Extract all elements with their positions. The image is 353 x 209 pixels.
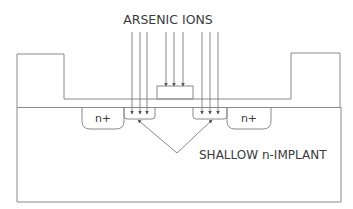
ion-beam-arrows xyxy=(132,32,218,114)
n-plus-right-label: n+ xyxy=(241,112,257,125)
ion-implant-diagram: ARSENIC IONS n+ n+ SHALLOW n-IMPLANT xyxy=(0,0,353,209)
arsenic-ions-label: ARSENIC IONS xyxy=(123,12,213,27)
n-plus-left-label: n+ xyxy=(95,112,111,125)
n-plus-left-region: n+ xyxy=(82,108,124,129)
shallow-n-implant-label: SHALLOW n-IMPLANT xyxy=(199,148,327,162)
gate-block xyxy=(157,86,193,99)
n-plus-right-region: n+ xyxy=(227,108,271,129)
shallow-implant-left xyxy=(124,108,155,119)
